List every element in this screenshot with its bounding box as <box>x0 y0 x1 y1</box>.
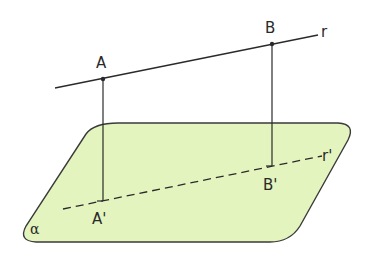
label-a: A <box>96 54 107 72</box>
plane-alpha <box>24 123 351 242</box>
label-r: r <box>321 23 328 41</box>
label-alpha: α <box>30 221 40 237</box>
point-a <box>101 77 105 81</box>
label-r-prime: r' <box>322 147 332 165</box>
label-a-prime: A' <box>92 210 106 228</box>
point-b <box>270 42 274 46</box>
label-b: B <box>265 19 275 37</box>
line-r <box>55 35 318 88</box>
projection-diagram: A B r A' B' r' α <box>0 0 372 256</box>
label-b-prime: B' <box>263 176 277 194</box>
